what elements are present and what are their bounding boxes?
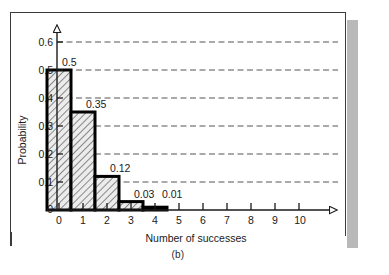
y-tick-label-0: 0: [47, 203, 53, 215]
y-tick-label-0.1: 0.1: [38, 176, 53, 188]
bar-value-label-0: 0.5: [62, 56, 77, 68]
x-tick-label-4: 4: [152, 214, 158, 226]
x-axis-title: Number of successes: [146, 232, 247, 244]
y-axis-title: Probability: [16, 115, 28, 165]
y-tick-label-0.5: 0.5: [38, 64, 53, 76]
x-tick-label-2: 2: [104, 214, 110, 226]
bar-1: [71, 112, 95, 210]
bar-0: [47, 70, 71, 210]
x-tick-label-0: 0: [56, 214, 62, 226]
gridlines: [57, 42, 338, 182]
y-tick-label-0.3: 0.3: [38, 120, 53, 132]
bar-value-label-2: 0.12: [110, 162, 131, 174]
y-tick-label-0.4: 0.4: [38, 92, 53, 104]
bar-value-label-4: 0.01: [162, 188, 183, 200]
y-tick-label-0.2: 0.2: [38, 148, 53, 160]
figure-caption: (b): [0, 249, 356, 260]
probability-bar-chart: 0 0.1 0.2 0.3 0.4 0.5 0.6 0 1 2 3 4 5 6 …: [0, 0, 389, 275]
y-tick-label-0.6: 0.6: [38, 36, 53, 48]
x-tick-label-3: 3: [128, 214, 134, 226]
bar-value-label-1: 0.35: [86, 98, 107, 110]
x-tick-label-10: 10: [294, 214, 306, 226]
x-tick-label-6: 6: [200, 214, 206, 226]
x-tick-label-9: 9: [272, 214, 278, 226]
x-tick-label-8: 8: [248, 214, 254, 226]
figure-root: 0 0.1 0.2 0.3 0.4 0.5 0.6 0 1 2 3 4 5 6 …: [0, 0, 389, 275]
bar-value-label-3: 0.03: [134, 188, 155, 200]
x-tick-label-1: 1: [80, 214, 86, 226]
x-tick-label-7: 7: [224, 214, 230, 226]
x-tick-label-5: 5: [176, 214, 182, 226]
x-tick-labels: 0 1 2 3 4 5 6 7 8 9 10: [56, 214, 306, 226]
